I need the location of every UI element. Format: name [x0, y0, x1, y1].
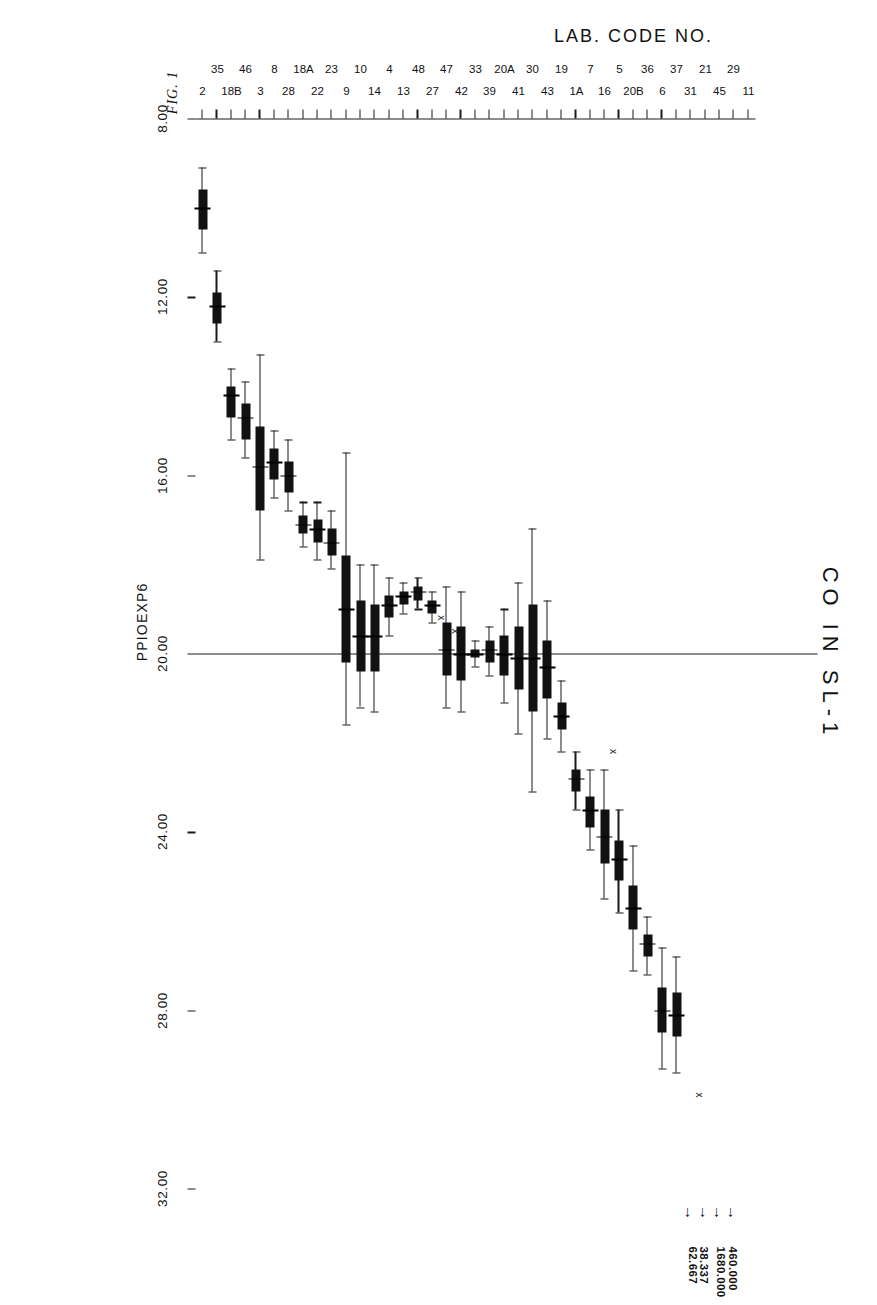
x-tick [416, 109, 417, 118]
whisker-cap [658, 947, 666, 948]
box [427, 600, 436, 613]
x-tick [215, 109, 216, 118]
x-tick-label: 7 [587, 62, 593, 74]
whisker-cap [299, 501, 307, 502]
boxplot-figure: CO IN SL-1 PPIOEXP6 LAB. CODE NO. FIG. 1… [0, 0, 877, 1305]
x-tick-label: 13 [397, 84, 410, 96]
median-line [381, 604, 397, 606]
x-tick-label: 23 [325, 62, 338, 74]
median-line [266, 461, 282, 463]
whisker-cap [198, 167, 206, 168]
x-tick-label: 14 [368, 84, 381, 96]
x-tick-label: 10 [354, 62, 367, 74]
offscale-value-label: 38.337 [697, 1246, 709, 1284]
whisker-cap [514, 733, 522, 734]
offscale-value-label: 460.000 [726, 1246, 738, 1290]
x-tick [531, 109, 532, 118]
x-axis-label: LAB. CODE NO. [553, 26, 712, 47]
median-line [424, 604, 440, 606]
x-tick-label: 8 [271, 62, 277, 74]
y-tick [187, 1010, 195, 1011]
whisker-cap [672, 1072, 680, 1073]
x-tick [560, 109, 561, 118]
whisker-cap [385, 635, 393, 636]
median-line [295, 524, 311, 526]
whisker-cap [514, 582, 522, 583]
x-tick-label: 42 [454, 84, 467, 96]
x-tick [244, 109, 245, 118]
whisker-cap [500, 702, 508, 703]
whisker-cap [213, 270, 221, 271]
x-tick [230, 109, 231, 118]
whisker-cap [528, 791, 536, 792]
whisker-cap [615, 912, 623, 913]
whisker-cap [615, 809, 623, 810]
box [255, 426, 264, 511]
x-tick [617, 109, 618, 118]
whisker-cap [643, 916, 651, 917]
median-line [596, 836, 612, 838]
median-line [438, 649, 454, 651]
figure-rotation-wrapper: CO IN SL-1 PPIOEXP6 LAB. CODE NO. FIG. 1… [0, 0, 877, 1305]
x-tick-label: 2 [199, 84, 205, 96]
offscale-value-label: 62.667 [686, 1246, 698, 1284]
median-line [654, 1010, 670, 1012]
chart-title: CO IN SL-1 [816, 566, 842, 740]
median-line [639, 943, 655, 945]
x-tick [316, 109, 317, 118]
whisker-cap [629, 970, 637, 971]
whisker-cap [557, 751, 565, 752]
x-tick [646, 109, 647, 118]
median-line [524, 657, 540, 659]
box [226, 386, 235, 417]
whisker-cap [327, 510, 335, 511]
box [241, 403, 250, 439]
y-tick-label: 12.00 [154, 278, 169, 315]
x-tick-label: 33 [469, 62, 482, 74]
whisker-cap [586, 769, 594, 770]
whisker-cap [600, 898, 608, 899]
y-tick-label: 28.00 [154, 991, 169, 1028]
median-line [539, 666, 555, 668]
x-tick-label: 20A [493, 62, 513, 74]
x-tick [660, 109, 661, 118]
x-tick [574, 109, 575, 118]
whisker-cap [485, 675, 493, 676]
x-tick-label: 6 [658, 84, 664, 96]
whisker-cap [313, 559, 321, 560]
whisker-cap [356, 564, 364, 565]
x-tick-label: 18A [292, 62, 312, 74]
box [585, 796, 594, 827]
box [284, 461, 293, 492]
whisker-cap [270, 497, 278, 498]
whisker-cap [414, 577, 422, 578]
y-tick [187, 653, 195, 654]
whisker-cap [600, 769, 608, 770]
whisker-cap [442, 707, 450, 708]
y-tick-label: 8.00 [154, 104, 169, 133]
whisker-cap [241, 381, 249, 382]
plot-area: 8.0012.0016.0020.0024.0028.0032.00 23518… [195, 118, 755, 1188]
x-tick [732, 109, 733, 118]
whisker-cap [399, 613, 407, 614]
whisker-cap [385, 577, 393, 578]
whisker-cap [672, 956, 680, 957]
offscale-value-label: 1680.000 [714, 1246, 726, 1297]
offscale-arrow-icon: → [697, 1205, 712, 1220]
x-tick [603, 109, 604, 118]
whisker-cap [399, 582, 407, 583]
median-line [496, 653, 512, 655]
x-tick-label: 47 [440, 62, 453, 74]
whisker-cap [629, 845, 637, 846]
outlier-marker: x [693, 1092, 703, 1097]
whisker-cap [284, 439, 292, 440]
offscale-arrow-icon: → [712, 1205, 727, 1220]
whisker-cap [586, 849, 594, 850]
median-line [367, 635, 383, 637]
offscale-arrow-icon: → [726, 1205, 741, 1220]
x-tick [632, 109, 633, 118]
y-tick [187, 118, 195, 119]
y-tick [187, 296, 195, 297]
x-tick [345, 109, 346, 118]
median-line [252, 466, 268, 468]
